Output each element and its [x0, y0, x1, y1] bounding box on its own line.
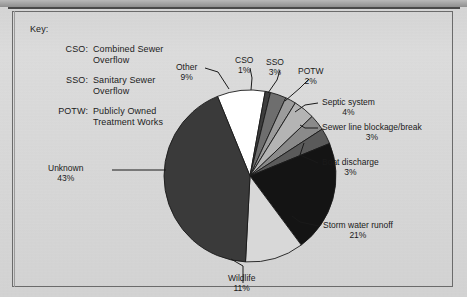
label-storm-water-runoff: Storm water runoff 21% [323, 220, 393, 240]
key-abbr-potw: POTW: [52, 106, 88, 128]
label-other: Other 9% [176, 62, 197, 82]
label-unknown-pct: 43% [48, 173, 83, 183]
key-abbr-sso: SSO: [52, 75, 88, 97]
key-abbr-cso: CSO: [52, 44, 88, 66]
label-sewer-line-blockage-name: Sewer line blockage/break [322, 122, 422, 132]
label-septic-system-name: Septic system [322, 97, 375, 107]
label-other-name: Other [176, 62, 197, 72]
scan-top-band [0, 0, 467, 7]
label-boat-discharge: Boat discharge 3% [322, 157, 379, 177]
label-boat-discharge-pct: 3% [322, 167, 379, 177]
key-def-potw-line2: Treatment Works [93, 117, 205, 128]
label-other-pct: 9% [176, 72, 197, 82]
label-sewer-line-blockage: Sewer line blockage/break 3% [322, 122, 422, 142]
key-def-potw: Publicly Owned Treatment Works [93, 106, 205, 128]
label-septic-system: Septic system 4% [322, 97, 375, 117]
label-storm-water-runoff-name: Storm water runoff [323, 220, 393, 230]
label-potw: POTW 2% [298, 66, 324, 86]
key-def-sso-line1: Sanitary Sewer [93, 75, 155, 85]
label-unknown-name: Unknown [48, 163, 83, 173]
label-sso-pct: 3% [266, 67, 284, 77]
label-septic-system-pct: 4% [322, 107, 375, 117]
label-sso-name: SSO [266, 57, 284, 67]
label-boat-discharge-name: Boat discharge [322, 157, 379, 167]
key-def-sso-line2: Overflow [93, 86, 205, 97]
label-sewer-line-blockage-pct: 3% [322, 132, 422, 142]
key-item-potw: POTW: Publicly Owned Treatment Works [52, 106, 205, 128]
label-sso: SSO 3% [266, 57, 284, 77]
label-wildlife-name: Wildlife [228, 273, 255, 283]
label-cso-pct: 1% [235, 65, 253, 75]
label-wildlife: Wildlife 11% [228, 273, 255, 293]
key-def-potw-line1: Publicly Owned [93, 106, 156, 116]
figure-frame-inner-left [14, 11, 15, 287]
label-potw-pct: 2% [298, 76, 324, 86]
key-title: Key: [30, 24, 205, 35]
label-cso-name: CSO [235, 55, 253, 65]
key-def-cso-line1: Combined Sewer [93, 44, 163, 54]
label-unknown: Unknown 43% [48, 163, 83, 183]
label-storm-water-runoff-pct: 21% [323, 230, 393, 240]
label-wildlife-pct: 11% [228, 283, 255, 293]
figure-page: Key: CSO: Combined Sewer Overflow SSO: S… [0, 0, 467, 297]
label-potw-name: POTW [298, 66, 324, 76]
figure-top-rule [8, 7, 460, 9]
label-cso: CSO 1% [235, 55, 253, 75]
